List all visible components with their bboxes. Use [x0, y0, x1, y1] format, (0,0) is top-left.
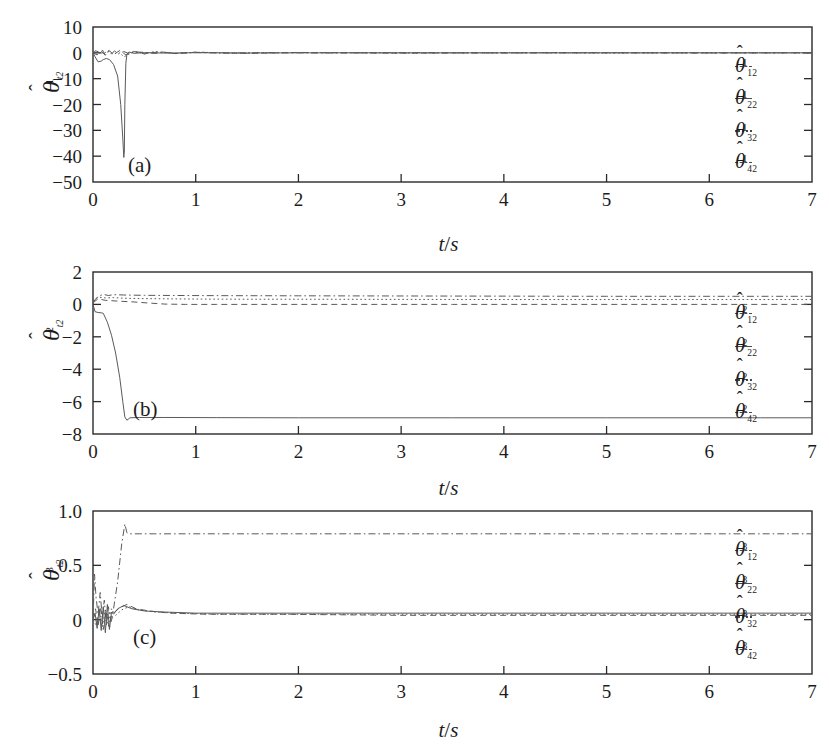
series-line — [93, 604, 812, 629]
x-tick-label: 7 — [807, 441, 817, 462]
x-tick-label: 3 — [396, 681, 406, 702]
x-tick-label: 2 — [294, 189, 304, 210]
panel-tag: (c) — [133, 625, 156, 649]
y-tick-label: −40 — [52, 146, 82, 167]
y-tick-label: −0.5 — [48, 664, 82, 685]
y-tick-label: 0 — [73, 610, 83, 631]
legend-item: θˆ222 — [735, 346, 752, 347]
legend-item: θˆ122 — [735, 98, 752, 99]
x-tick-label: 0 — [88, 681, 98, 702]
x-tick-label: 6 — [705, 189, 715, 210]
x-tick-label: 7 — [807, 681, 817, 702]
subplot-b: 0123456720−2−4−6−8(b)t/sθˆ2t2θˆ212θˆ222θ… — [0, 250, 829, 490]
y-tick-label: −8 — [62, 424, 82, 445]
y-tick-label: −20 — [52, 95, 82, 116]
legend-item: θˆ232 — [735, 379, 752, 381]
x-tick-label: 7 — [807, 189, 817, 210]
legend-item: θˆ212 — [735, 313, 752, 314]
legend-item: θˆ112 — [735, 66, 752, 67]
y-tick-label: −2 — [62, 327, 82, 348]
x-tick-label: 4 — [499, 189, 509, 210]
series-line — [93, 304, 812, 420]
subplot-a: 01234567100−10−20−30−40−50(a)t/sθˆ1t2θˆ1… — [0, 0, 829, 250]
series-line — [93, 52, 812, 157]
plot-canvas: 01234567100−10−20−30−40−50(a) — [0, 0, 829, 250]
legend-label: θˆ242 — [735, 401, 757, 424]
x-tick-label: 5 — [602, 681, 612, 702]
panel-tag: (a) — [128, 153, 151, 177]
legend-label: θˆ222 — [735, 335, 757, 358]
series-group — [93, 50, 812, 158]
y-tick-label: 0 — [73, 43, 83, 64]
plot-canvas: 0123456720−2−4−6−8(b) — [0, 250, 829, 490]
series-line — [93, 51, 812, 57]
figure-root: 01234567100−10−20−30−40−50(a)t/sθˆ1t2θˆ1… — [0, 0, 829, 755]
x-tick-label: 2 — [294, 681, 304, 702]
panel-tag: (b) — [133, 397, 158, 421]
series-group — [93, 294, 812, 420]
x-axis-label: t/s — [439, 718, 459, 743]
series-line — [93, 294, 812, 302]
y-tick-label: 0 — [73, 294, 83, 315]
y-tick-label: −6 — [62, 392, 82, 413]
x-tick-label: 0 — [88, 441, 98, 462]
legend-item: θˆ322 — [735, 583, 752, 584]
x-tick-label: 4 — [499, 681, 509, 702]
legend-item: θˆ332 — [735, 616, 752, 618]
series-line — [93, 299, 812, 305]
y-tick-label: 2 — [73, 262, 83, 283]
x-tick-label: 1 — [191, 189, 201, 210]
x-tick-label: 5 — [602, 189, 612, 210]
y-tick-label: −30 — [52, 120, 82, 141]
plot-frame — [93, 27, 812, 182]
series-line — [93, 604, 812, 632]
x-tick-label: 2 — [294, 441, 304, 462]
x-tick-label: 5 — [602, 441, 612, 462]
x-tick-label: 3 — [396, 441, 406, 462]
series-line — [93, 297, 812, 301]
subplot-c: 012345671.00.50−0.5(c)t/sθˆ3t2θˆ312θˆ322… — [0, 490, 829, 755]
legend-item: θˆ312 — [735, 550, 752, 551]
legend-item: θˆ242 — [735, 412, 752, 413]
y-tick-label: −50 — [52, 172, 82, 193]
legend-item: θˆ342 — [735, 649, 752, 650]
x-tick-label: 1 — [191, 681, 201, 702]
x-tick-label: 1 — [191, 441, 201, 462]
x-tick-label: 6 — [705, 441, 715, 462]
x-tick-label: 4 — [499, 441, 509, 462]
legend-item: θˆ132 — [735, 130, 752, 132]
legend-label: θˆ342 — [735, 638, 757, 661]
series-line — [93, 524, 812, 625]
y-tick-label: 1.0 — [58, 501, 82, 522]
y-tick-label: −4 — [62, 359, 83, 380]
x-tick-label: 0 — [88, 189, 98, 210]
series-group — [93, 524, 812, 633]
legend-label: θˆ322 — [735, 572, 757, 595]
y-tick-label: 10 — [63, 17, 82, 38]
legend-item: θˆ142 — [735, 162, 752, 163]
plot-frame — [93, 511, 812, 674]
legend-label: θˆ142 — [735, 151, 757, 174]
x-tick-label: 6 — [705, 681, 715, 702]
plot-canvas: 012345671.00.50−0.5(c) — [0, 490, 829, 755]
x-tick-label: 3 — [396, 189, 406, 210]
series-line — [93, 607, 812, 628]
